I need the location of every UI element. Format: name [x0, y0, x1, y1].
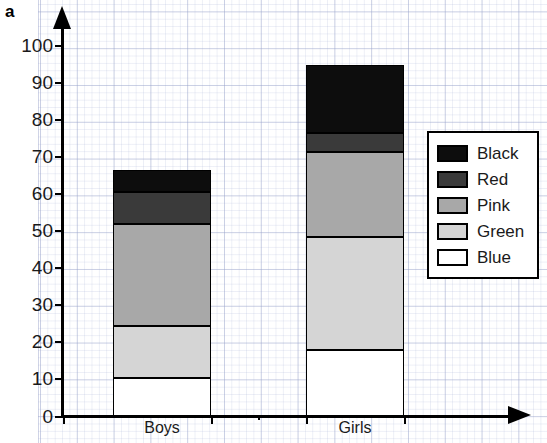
y-tick-label-0: 0	[42, 407, 53, 426]
bar-segment-girls-pink	[306, 152, 404, 237]
bar-segment-girls-black	[306, 65, 404, 134]
chart-page: a 0102030405060708090100 BoysGirls Black…	[0, 0, 547, 443]
y-tick-20	[55, 341, 64, 343]
y-tick-90	[55, 82, 64, 84]
y-tick-label-100: 100	[21, 36, 53, 55]
legend-swatch-black	[437, 145, 468, 162]
legend-item-green[interactable]: Green	[429, 218, 537, 244]
bar-segment-boys-pink	[113, 224, 211, 326]
y-axis-arrowhead	[53, 6, 71, 29]
x-tick-3	[404, 415, 406, 424]
bar-boys	[113, 0, 211, 443]
x-tick-0	[63, 415, 65, 424]
x-tick-1	[211, 415, 213, 424]
y-tick-10	[55, 378, 64, 380]
y-tick-label-90: 90	[32, 73, 53, 92]
bar-segment-boys-black	[113, 170, 211, 192]
legend-item-red[interactable]: Red	[429, 166, 537, 192]
y-tick-label-40: 40	[32, 258, 53, 277]
bar-segment-girls-green	[306, 237, 404, 350]
y-tick-label-10: 10	[32, 369, 53, 388]
legend-box: BlackRedPinkGreenBlue	[427, 131, 539, 279]
bar-segment-boys-red	[113, 192, 211, 223]
legend-swatch-blue	[437, 249, 468, 266]
legend-label-green: Green	[477, 223, 524, 240]
bar-segment-boys-green	[113, 326, 211, 379]
y-tick-80	[55, 119, 64, 121]
x-tick-midpoint	[258, 415, 260, 420]
y-tick-label-30: 30	[32, 295, 53, 314]
bar-girls	[306, 0, 404, 443]
legend-swatch-pink	[437, 197, 468, 214]
legend-label-blue: Blue	[477, 249, 511, 266]
bar-segment-girls-red	[306, 133, 404, 152]
legend-swatch-red	[437, 171, 468, 188]
y-tick-70	[55, 156, 64, 158]
y-tick-60	[55, 193, 64, 195]
y-tick-label-80: 80	[32, 110, 53, 129]
y-tick-label-20: 20	[32, 332, 53, 351]
legend-item-pink[interactable]: Pink	[429, 192, 537, 218]
y-tick-label-60: 60	[32, 184, 53, 203]
bar-segment-girls-blue	[306, 350, 404, 417]
y-tick-30	[55, 304, 64, 306]
x-axis-arrowhead	[508, 406, 531, 424]
y-tick-label-50: 50	[32, 221, 53, 240]
legend-label-red: Red	[477, 171, 508, 188]
y-tick-100	[55, 45, 64, 47]
legend-label-black: Black	[477, 145, 519, 162]
panel-label-a: a	[5, 3, 14, 20]
legend-item-blue[interactable]: Blue	[429, 244, 537, 270]
y-tick-50	[55, 230, 64, 232]
legend-swatch-green	[437, 223, 468, 240]
legend-label-pink: Pink	[477, 197, 510, 214]
y-tick-label-70: 70	[32, 147, 53, 166]
bar-segment-boys-blue	[113, 378, 211, 416]
y-tick-40	[55, 267, 64, 269]
y-axis-line	[61, 26, 64, 417]
legend-item-black[interactable]: Black	[429, 140, 537, 166]
